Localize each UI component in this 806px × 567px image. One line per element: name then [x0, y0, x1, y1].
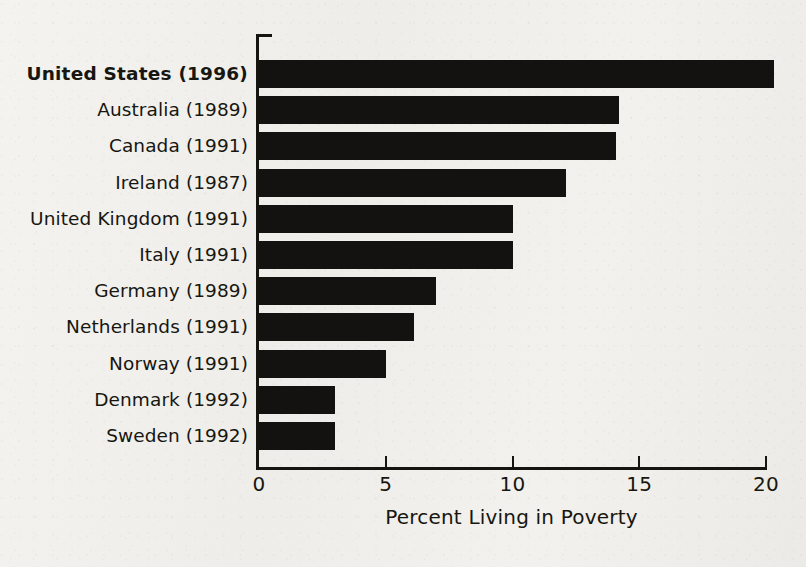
bar	[259, 277, 436, 305]
category-label: Denmark (1992)	[94, 391, 248, 410]
chart-page: United States (1996)Australia (1989)Cana…	[0, 0, 806, 567]
bar	[259, 350, 386, 378]
x-tick-label: 20	[753, 472, 779, 496]
category-label: Ireland (1987)	[115, 173, 248, 192]
bar	[259, 60, 774, 88]
bar	[259, 169, 566, 197]
x-tick-mark	[638, 456, 640, 468]
x-tick-mark	[512, 456, 514, 468]
bar	[259, 205, 513, 233]
bar	[259, 313, 414, 341]
bar	[259, 422, 335, 450]
x-tick-label: 0	[253, 472, 266, 496]
x-tick-label: 15	[626, 472, 652, 496]
category-label: Canada (1991)	[109, 137, 248, 156]
x-tick-mark	[385, 456, 387, 468]
category-label: Sweden (1992)	[106, 427, 248, 446]
bar	[259, 386, 335, 414]
category-label: United States (1996)	[26, 65, 248, 84]
x-tick-label: 10	[500, 472, 526, 496]
x-tick-label: 5	[379, 472, 392, 496]
bar-chart: United States (1996)Australia (1989)Cana…	[0, 0, 806, 567]
x-axis-title: Percent Living in Poverty	[256, 505, 767, 529]
bar	[259, 96, 619, 124]
category-label: Italy (1991)	[139, 246, 248, 265]
category-label: Australia (1989)	[97, 101, 248, 120]
bar	[259, 132, 616, 160]
category-label: United Kingdom (1991)	[30, 210, 248, 229]
category-label: Norway (1991)	[109, 354, 248, 373]
bar	[259, 241, 513, 269]
category-label: Netherlands (1991)	[66, 318, 248, 337]
y-axis-top-tick	[256, 34, 272, 37]
category-label: Germany (1989)	[94, 282, 248, 301]
x-tick-mark	[765, 456, 767, 468]
